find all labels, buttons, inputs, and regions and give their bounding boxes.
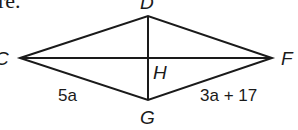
vertex-label-d: D [140, 0, 154, 12]
intersection-label-h: H [153, 63, 167, 82]
vertex-label-g: G [140, 108, 155, 127]
side-label-cg: 5a [58, 87, 77, 104]
vertex-label-c: C [0, 49, 9, 68]
vertex-label-f: F [281, 49, 293, 68]
side-label-gf: 3a + 17 [200, 87, 257, 104]
